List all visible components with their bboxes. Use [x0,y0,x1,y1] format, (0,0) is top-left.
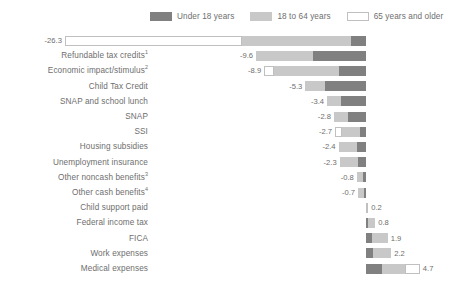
stacked-bar[interactable] [264,66,366,76]
category-label: Unemployment insurance [53,155,148,170]
bar-segment[interactable] [339,142,357,152]
category-label: Economic impact/stimulus2 [48,63,148,78]
category-label: FICA [129,231,148,246]
bar-segment[interactable] [340,157,358,167]
value-label: 4.7 [423,261,434,276]
value-label: -3.4 [311,94,324,109]
stacked-bar[interactable] [305,81,366,91]
bar-segment[interactable] [341,96,366,106]
stacked-bar[interactable] [256,51,366,61]
legend-swatch-under18 [150,12,172,21]
bar-segment[interactable] [274,66,338,76]
category-label: SNAP [125,109,148,124]
legend-item[interactable]: 18 to 64 years [250,12,330,21]
stacked-bar[interactable] [357,172,366,182]
value-label: 2.2 [394,246,405,261]
bar-segment[interactable] [363,172,366,182]
bar-segment[interactable] [364,188,366,198]
value-label: -2.3 [324,155,337,170]
value-label: -0.8 [341,170,354,185]
category-label: Child Tax Credit [89,79,148,94]
bar-segment[interactable] [339,66,366,76]
bar-segment[interactable] [65,36,242,46]
legend-item-label: 65 years and older [374,12,444,21]
bar-segment[interactable] [366,203,368,213]
bar-segment[interactable] [264,66,274,76]
footnote-marker: 2 [145,65,148,71]
legend-item-label: Under 18 years [177,12,234,21]
stacked-bar[interactable] [335,127,366,137]
category-label: Other noncash benefits3 [58,170,148,185]
value-label: 0.2 [371,200,382,215]
chart-legend: Under 18 years18 to 64 years65 years and… [150,10,450,23]
bar-segment[interactable] [335,127,342,137]
chart-row: Housing subsidies-2.4 [0,139,450,154]
value-label: -2.4 [322,139,335,154]
value-label: -2.7 [319,124,332,139]
bar-segment[interactable] [382,264,405,274]
chart-row: SNAP-2.8 [0,109,450,124]
stacked-bar[interactable] [366,264,420,274]
legend-swatch-65plus [347,12,369,21]
stacked-bar[interactable] [366,248,391,258]
stacked-bar[interactable] [340,157,366,167]
bar-segment[interactable] [366,248,373,258]
stacked-bar[interactable] [366,203,368,213]
bar-segment[interactable] [372,233,388,243]
category-label: Refundable tax credits1 [61,48,148,63]
stacked-bar[interactable] [339,142,366,152]
chart-plot-area: Social Security-26.3Refundable tax credi… [0,33,450,283]
chart-row: Other cash benefits4-0.7 [0,185,450,200]
stacked-bar[interactable] [334,112,366,122]
stacked-bar[interactable] [327,96,366,106]
bar-segment[interactable] [334,112,348,122]
bar-segment[interactable] [242,36,351,46]
value-label: -5.3 [289,79,302,94]
category-label: SSI [135,124,149,139]
bar-segment[interactable] [373,248,391,258]
bar-segment[interactable] [313,51,366,61]
chart-row: Economic impact/stimulus2-8.9 [0,63,450,78]
value-label: 1.9 [391,231,402,246]
value-label: -26.3 [45,33,62,48]
category-label: Work expenses [90,246,148,261]
chart-row: Unemployment insurance-2.3 [0,155,450,170]
stacked-bar[interactable] [366,218,375,228]
stacked-bar[interactable] [65,36,366,46]
chart-container: Under 18 years18 to 64 years65 years and… [0,0,450,286]
legend-item-label: 18 to 64 years [277,12,330,21]
chart-row: Work expenses2.2 [0,246,450,261]
value-label: 0.8 [378,215,389,230]
bar-segment[interactable] [325,81,366,91]
chart-row: Federal income tax0.8 [0,215,450,230]
legend-swatch-18to64 [250,12,272,21]
chart-row: SSI-2.7 [0,124,450,139]
bar-segment[interactable] [327,96,341,106]
bar-segment[interactable] [405,264,420,274]
category-label: Child support paid [80,200,148,215]
chart-row: Child support paid0.2 [0,200,450,215]
bar-segment[interactable] [342,127,360,137]
chart-row: Medical expenses4.7 [0,261,450,276]
value-label: -9.6 [240,48,253,63]
legend-item[interactable]: Under 18 years [150,12,234,21]
bar-segment[interactable] [351,36,366,46]
bar-segment[interactable] [360,127,366,137]
bar-segment[interactable] [305,81,324,91]
legend-item[interactable]: 65 years and older [347,12,444,21]
category-label: Federal income tax [77,215,148,230]
value-label: -8.9 [248,63,261,78]
category-label: SNAP and school lunch [60,94,148,109]
chart-row: SNAP and school lunch-3.4 [0,94,450,109]
bar-segment[interactable] [368,218,375,228]
stacked-bar[interactable] [358,188,366,198]
bar-segment[interactable] [348,112,366,122]
stacked-bar[interactable] [366,233,388,243]
bar-segment[interactable] [366,264,382,274]
bar-segment[interactable] [256,51,313,61]
chart-row: FICA1.9 [0,231,450,246]
bar-segment[interactable] [357,142,366,152]
footnote-marker: 4 [145,186,148,192]
footnote-marker: 3 [145,171,148,177]
bar-segment[interactable] [358,157,366,167]
